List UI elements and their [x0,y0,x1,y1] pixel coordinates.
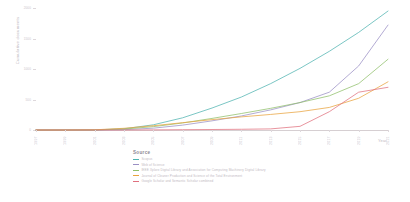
plot-area [36,8,388,130]
cumulative-documents-chart: Cumulative documents 0500100015002000 19… [0,0,410,202]
x-axis-tick-label: 2017 [327,133,331,145]
series-line [36,82,388,130]
y-axis-tick-label: 0 [0,128,31,132]
legend-color-swatch [133,159,139,160]
legend-item-label: Google Scholar and Semantic Scholar comb… [141,179,213,184]
legend-item[interactable]: Journal of Cleaner Production and Scienc… [133,174,395,179]
y-axis-tick-label: 1500 [0,37,31,41]
x-axis-tick-label: 2019 [357,133,361,145]
x-axis-tick-label: 2005 [151,133,155,145]
series-line [36,11,388,130]
x-axis-tick-mark [329,130,330,132]
legend-item[interactable]: Scopus [133,157,395,162]
x-axis-tick-label: 2013 [269,133,273,145]
x-axis-tick-mark [241,130,242,132]
legend-color-swatch [133,164,139,165]
x-axis-tick-mark [124,130,125,132]
y-axis-tick-label: 1000 [0,67,31,71]
legend-item[interactable]: Web of Science [133,163,395,168]
legend-item[interactable]: Google Scholar and Semantic Scholar comb… [133,179,395,184]
x-axis-tick-mark [65,130,66,132]
x-axis-tick-label: 2007 [181,133,185,145]
x-axis-tick-label: 2015 [298,133,302,145]
legend-title: Source [133,150,395,155]
series-lines [36,8,388,130]
x-axis-tick-mark [153,130,154,132]
x-axis-tick-mark [359,130,360,132]
x-axis-tick-mark [271,130,272,132]
y-axis-tick-label: 500 [0,98,31,102]
legend-item-label: IEEE Xplore Digital Library and Associat… [141,168,265,173]
y-axis-tick-label: 2000 [0,6,31,10]
legend-color-swatch [133,181,139,182]
legend-rows: ScopusWeb of ScienceIEEE Xplore Digital … [133,157,395,184]
x-axis-tick-mark [212,130,213,132]
x-axis-tick-mark [388,130,389,132]
x-axis-title: Year [378,138,387,143]
x-axis-tick-label: 1999 [63,133,67,145]
series-line [36,25,388,130]
legend: Source ScopusWeb of ScienceIEEE Xplore D… [133,150,395,185]
legend-item-label: Journal of Cleaner Production and Scienc… [141,174,242,179]
x-axis-tick-mark [95,130,96,132]
x-axis-tick-mark [300,130,301,132]
x-axis-tick-mark [183,130,184,132]
legend-item-label: Scopus [141,157,152,162]
legend-item-label: Web of Science [141,163,164,168]
x-axis-tick-label: 2001 [93,133,97,145]
x-axis-tick-label: 1997 [34,133,38,145]
x-axis-tick-label: 2003 [122,133,126,145]
x-axis-tick-mark [36,130,37,132]
x-axis-tick-label: 2009 [210,133,214,145]
x-axis-tick-label: 2011 [239,133,243,145]
legend-item[interactable]: IEEE Xplore Digital Library and Associat… [133,168,395,173]
legend-color-swatch [133,170,139,171]
legend-color-swatch [133,175,139,176]
